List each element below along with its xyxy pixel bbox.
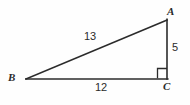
side-length-hypotenuse: 13 bbox=[84, 31, 96, 42]
vertex-label-c: C bbox=[163, 81, 170, 92]
right-angle-marker-icon bbox=[158, 69, 168, 79]
vertex-label-a: A bbox=[167, 6, 174, 17]
side-length-base: 12 bbox=[95, 82, 107, 93]
hypotenuse-line bbox=[26, 20, 167, 79]
triangle-figure: A B C 13 12 5 bbox=[0, 0, 190, 105]
side-length-vertical: 5 bbox=[172, 42, 178, 53]
vertex-label-b: B bbox=[8, 72, 15, 83]
